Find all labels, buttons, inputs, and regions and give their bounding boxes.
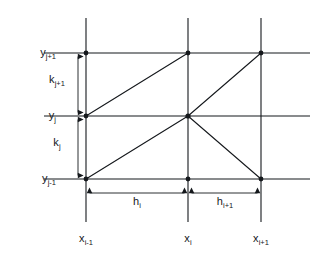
y-axis-label-bottom: yj-1 — [8, 173, 56, 184]
x-axis-label-mid: xi — [169, 233, 207, 244]
mesh-diagram-figure: yj+1 yj yj-1 kj+1 kj hi hi+1 xi-1 xi xi+… — [0, 0, 317, 260]
x-axis-label-right: xi+1 — [238, 233, 284, 244]
diagonal-lower-left — [86, 116, 188, 179]
node-right-bottom — [259, 177, 264, 182]
node-right-top — [259, 51, 264, 56]
dimension-label-k-upper: kj+1 — [38, 74, 76, 85]
x-axis-label-left: xi-1 — [62, 233, 110, 244]
diagonal-lower-right — [188, 116, 261, 179]
dimension-label-h-right: hi+1 — [204, 196, 246, 207]
diagram-canvas — [0, 0, 317, 260]
dimension-label-k-lower: kj — [38, 137, 76, 148]
node-mid-bottom — [186, 177, 191, 182]
node-left-top — [84, 51, 89, 56]
y-axis-label-mid: yj — [8, 110, 56, 121]
diagonal-upper-right — [188, 53, 261, 116]
node-left-bottom — [84, 177, 89, 182]
y-axis-label-top: yj+1 — [8, 47, 56, 58]
diagonal-upper-left — [86, 53, 188, 116]
node-left-mid — [84, 114, 89, 119]
node-mid-mid — [185, 113, 190, 118]
dimension-label-h-left: hi — [117, 196, 157, 207]
node-mid-top — [186, 51, 191, 56]
